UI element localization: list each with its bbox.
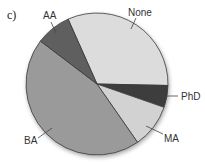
label-ba: BA — [24, 135, 38, 146]
pie-chart: AA None PhD MA BA — [0, 0, 205, 162]
label-ma: MA — [164, 133, 179, 144]
pie-slices — [26, 13, 168, 155]
label-none: None — [128, 7, 152, 18]
label-phd: PhD — [181, 91, 200, 102]
label-aa: AA — [43, 10, 57, 21]
